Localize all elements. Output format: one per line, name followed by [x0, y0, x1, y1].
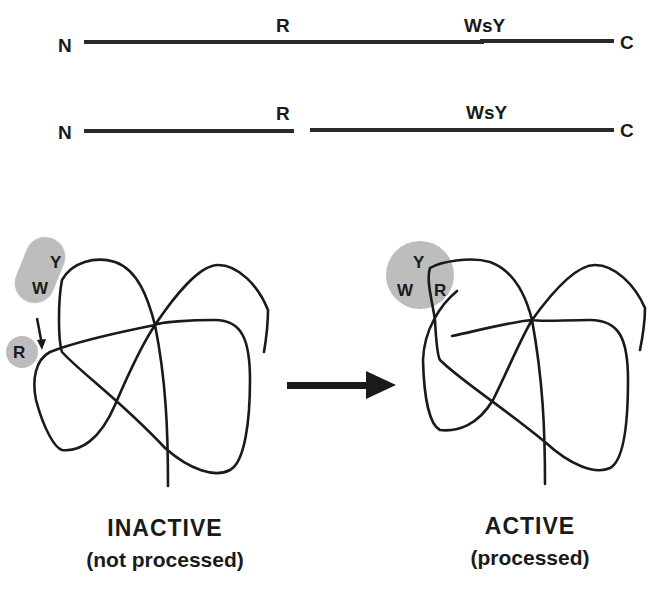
blob-label-y: Y — [413, 253, 425, 272]
folded-diagrams: Y W R Y W R — [0, 0, 664, 598]
active-caption: ACTIVE (processed) — [430, 513, 630, 570]
inactive-fold: Y W R — [6, 231, 268, 486]
blob-label-w: W — [397, 281, 414, 300]
blob-label-y: Y — [50, 253, 62, 272]
inactive-title: INACTIVE — [50, 515, 280, 542]
active-subtitle: (processed) — [430, 546, 630, 570]
blob-label-r: R — [434, 281, 446, 300]
blob-label-w: W — [32, 279, 49, 298]
polypeptide-chain — [423, 260, 645, 484]
active-title: ACTIVE — [430, 513, 630, 540]
polypeptide-chain — [34, 260, 268, 486]
inactive-caption: INACTIVE (not processed) — [50, 515, 280, 572]
inactive-subtitle: (not processed) — [50, 548, 280, 572]
blob-label-r: R — [13, 343, 25, 362]
active-fold: Y W R — [386, 241, 645, 484]
transition-arrow-icon — [287, 371, 396, 399]
